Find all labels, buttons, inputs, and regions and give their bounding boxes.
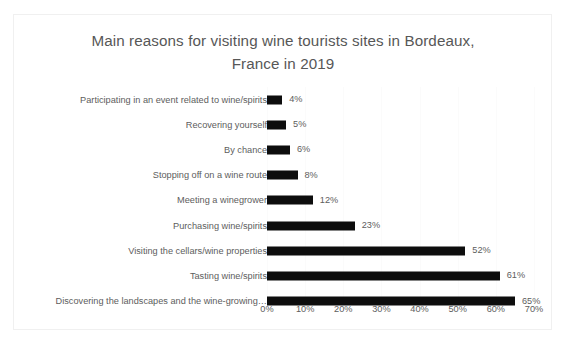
x-axis-tick-label: 0% xyxy=(260,303,273,315)
category-label: Tasting wine/spirits xyxy=(22,270,267,281)
bar[interactable] xyxy=(267,246,465,255)
bar-track: 61% xyxy=(267,271,551,280)
category-label: Recovering yourself xyxy=(22,119,267,130)
bar-track: 52% xyxy=(267,246,551,255)
x-axis-tick-label: 40% xyxy=(410,303,428,315)
bar-row: Tasting wine/spirits61% xyxy=(14,263,551,288)
bar-value-label: 23% xyxy=(362,220,380,231)
bar[interactable] xyxy=(267,95,282,104)
chart-title: Main reasons for visiting wine tourists … xyxy=(44,29,522,75)
bar-value-label: 6% xyxy=(297,144,310,155)
category-label: Meeting a winegrower xyxy=(22,195,267,206)
plot-area: Participating in an event related to win… xyxy=(14,87,551,315)
chart-card: Main reasons for visiting wine tourists … xyxy=(13,14,552,330)
bar-track: 23% xyxy=(267,221,551,230)
bar[interactable] xyxy=(267,196,313,205)
category-label: Stopping off on a wine route xyxy=(22,170,267,181)
category-label: Discovering the landscapes and the wine-… xyxy=(22,296,267,307)
bar[interactable] xyxy=(267,120,286,129)
x-axis-tick-label: 10% xyxy=(296,303,314,315)
bar-track: 5% xyxy=(267,120,551,129)
bar-row: Visiting the cellars/wine properties52% xyxy=(14,238,551,263)
bar-value-label: 8% xyxy=(305,170,318,181)
bar-value-label: 52% xyxy=(472,245,490,256)
bar-value-label: 4% xyxy=(289,94,302,105)
bar[interactable] xyxy=(267,171,298,180)
x-axis-tick-label: 30% xyxy=(372,303,390,315)
x-axis-tick-label: 50% xyxy=(449,303,467,315)
bar-value-label: 12% xyxy=(320,195,338,206)
bar-row: Meeting a winegrower12% xyxy=(14,188,551,213)
bar-value-label: 61% xyxy=(507,270,525,281)
x-axis-tick-label: 20% xyxy=(334,303,352,315)
x-axis-tick-label: 70% xyxy=(525,303,543,315)
bar-rows: Participating in an event related to win… xyxy=(14,87,551,314)
bar-track: 4% xyxy=(267,95,551,104)
bar-row: Purchasing wine/spirits23% xyxy=(14,213,551,238)
bar-track: 12% xyxy=(267,196,551,205)
bar[interactable] xyxy=(267,221,355,230)
x-axis-tick-label: 60% xyxy=(487,303,505,315)
bar-track: 8% xyxy=(267,171,551,180)
bar-row: By chance6% xyxy=(14,137,551,162)
category-label: Participating in an event related to win… xyxy=(22,94,267,105)
x-axis: 0%10%20%30%40%50%60%70% xyxy=(267,303,534,319)
bar-row: Stopping off on a wine route8% xyxy=(14,163,551,188)
bar[interactable] xyxy=(267,145,290,154)
category-label: By chance xyxy=(22,144,267,155)
category-label: Purchasing wine/spirits xyxy=(22,220,267,231)
bar-track: 6% xyxy=(267,145,551,154)
category-label: Visiting the cellars/wine properties xyxy=(22,245,267,256)
bar[interactable] xyxy=(267,271,500,280)
bar-row: Recovering yourself5% xyxy=(14,112,551,137)
bar-row: Participating in an event related to win… xyxy=(14,87,551,112)
bar-value-label: 5% xyxy=(293,119,306,130)
